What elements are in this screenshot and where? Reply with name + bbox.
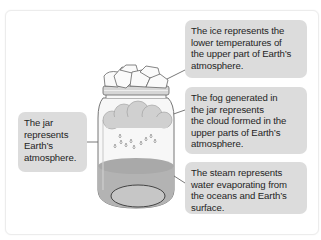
ice-label: The ice represents the lower temperature… — [185, 20, 307, 78]
water-surface — [98, 158, 174, 174]
ice-label-text: The ice represents the lower temperature… — [191, 25, 301, 71]
ice-cubes — [104, 65, 168, 88]
fog-label-text: The fog generated in the jar represents … — [191, 92, 301, 150]
steam-label: The steam represents water evaporating f… — [185, 162, 307, 214]
ice-leader-line — [165, 70, 185, 80]
fog-label: The fog generated in the jar represents … — [185, 87, 307, 154]
steam-label-text: The steam represents water evaporating f… — [191, 167, 301, 213]
jar-label: The jar represents Earth’s atmosphere. — [18, 112, 87, 172]
jar-label-text: The jar represents Earth’s atmosphere. — [24, 117, 81, 163]
jar-bottom — [111, 185, 165, 207]
